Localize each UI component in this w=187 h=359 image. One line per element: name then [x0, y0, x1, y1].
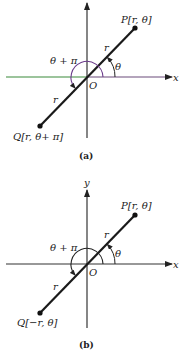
- point-q: [37, 310, 42, 315]
- point-p-label: P[r, θ]: [120, 14, 152, 25]
- angle-theta-pi-label: θ + π: [50, 55, 78, 66]
- angle-theta-pi-label: θ + π: [50, 242, 78, 253]
- point-q-label: Q[r, θ+ π]: [13, 131, 63, 142]
- point-p: [132, 25, 137, 30]
- x-axis-label: x: [173, 259, 179, 270]
- x-axis-label: x: [173, 72, 179, 83]
- origin-label: O: [89, 80, 97, 91]
- r-label-lower: r: [53, 281, 59, 292]
- caption-a: (a): [79, 151, 93, 161]
- polar-diagrams: x θ θ + π r r O P[r, θ] Q[r, θ+ π] (a) x…: [0, 0, 187, 359]
- figure-b: x y θ θ + π r r O P[r, θ] Q[−r, θ] (b): [6, 177, 179, 350]
- point-q: [37, 123, 42, 128]
- r-label-upper: r: [104, 42, 110, 53]
- r-label-upper: r: [104, 229, 110, 240]
- figure-a: x θ θ + π r r O P[r, θ] Q[r, θ+ π] (a): [6, 3, 179, 161]
- caption-b: (b): [79, 340, 94, 350]
- origin-label: O: [89, 267, 97, 278]
- point-p-label: P[r, θ]: [120, 200, 152, 211]
- r-label-lower: r: [53, 94, 59, 105]
- angle-theta-label: θ: [115, 248, 121, 259]
- point-q-label: Q[−r, θ]: [17, 317, 58, 328]
- theta-arc: [108, 58, 116, 78]
- point-p: [132, 212, 137, 217]
- y-axis-label: y: [83, 177, 90, 188]
- angle-theta-label: θ: [115, 61, 121, 72]
- theta-arc: [108, 245, 116, 265]
